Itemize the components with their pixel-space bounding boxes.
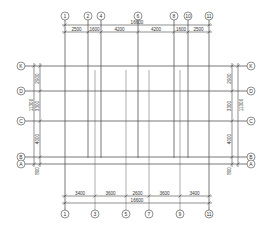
dimension-label: 2900 xyxy=(35,73,40,84)
axis-bubble-bottom-1-label: 1 xyxy=(64,211,67,217)
axis-bubble-top-8-label: 8 xyxy=(173,13,176,19)
dimension-label: 11300 xyxy=(239,98,244,111)
axis-grid-drawing: 1660025001600420042001600250034003600260… xyxy=(0,0,272,230)
dimension-label: 16600 xyxy=(131,20,144,25)
axis-bubble-top-4-label: 4 xyxy=(100,13,103,19)
top-axis-lines xyxy=(65,20,209,212)
dimension-label: 3400 xyxy=(189,191,200,196)
axis-bubble-top-1-label: 1 xyxy=(64,13,67,19)
dimension-lines: 1660025001600420042001600250034003600260… xyxy=(29,20,244,205)
dimension-label: 3300 xyxy=(35,100,40,111)
axis-bubbles: 1246810111357911KKDDCCBBAA xyxy=(17,12,255,218)
dimension-label: 2500 xyxy=(71,27,82,32)
axis-bubble-right-C-label: C xyxy=(249,118,253,124)
axis-bubble-bottom-9-label: 9 xyxy=(179,211,182,217)
dimension-label: 4200 xyxy=(151,27,162,32)
dimension-label: 2900 xyxy=(227,73,232,84)
dimension-label: 800 xyxy=(227,167,232,175)
dimension-label: 1600 xyxy=(176,27,187,32)
dimension-label: 3600 xyxy=(105,191,116,196)
axis-bubble-top-2-label: 2 xyxy=(87,13,90,19)
dimension-label: 1600 xyxy=(89,27,100,32)
axis-bubble-left-C-label: C xyxy=(19,118,23,124)
axis-bubble-bottom-7-label: 7 xyxy=(148,211,151,217)
axis-bubble-left-D-label: D xyxy=(19,88,23,94)
dimension-label: 800 xyxy=(35,167,40,175)
dimension-label: 16600 xyxy=(131,198,144,203)
dimension-label: 3600 xyxy=(159,191,170,196)
dimension-label: 3300 xyxy=(227,100,232,111)
dimension-label: 4200 xyxy=(114,27,125,32)
dimension-label: 2500 xyxy=(193,27,204,32)
dimension-label: 4000 xyxy=(227,133,232,144)
axis-bubble-top-11-label: 11 xyxy=(206,13,211,19)
axis-bubble-bottom-3-label: 3 xyxy=(94,211,97,217)
axis-bubble-top-6-label: 6 xyxy=(137,13,140,19)
dimension-label: 4000 xyxy=(35,133,40,144)
axis-bubble-bottom-5-label: 5 xyxy=(125,211,128,217)
axis-bubble-top-10-label: 10 xyxy=(185,13,191,19)
dimension-label: 3400 xyxy=(75,191,86,196)
dimension-label: 2600 xyxy=(132,191,143,196)
row-axis-lines xyxy=(20,66,252,164)
dimension-label: 11300 xyxy=(29,98,34,111)
axis-bubble-right-D-label: D xyxy=(249,88,253,94)
axis-bubble-bottom-11-label: 11 xyxy=(206,211,211,217)
